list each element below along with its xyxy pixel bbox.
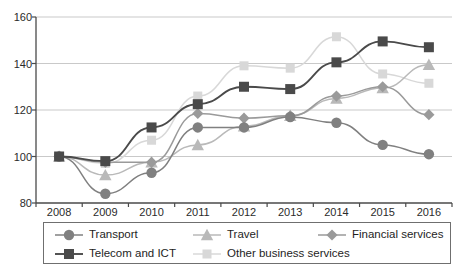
x-axis-tick-label: 2011 <box>186 206 210 218</box>
data-point-marker <box>240 61 249 70</box>
legend-label: Financial services <box>352 228 443 241</box>
x-axis-tick-label: 2013 <box>278 206 302 218</box>
series-line <box>59 37 429 164</box>
legend-label: Other business services <box>227 247 350 260</box>
data-point-marker <box>423 109 434 120</box>
data-point-marker <box>146 168 156 178</box>
y-axis-tick-label: 160 <box>4 12 32 23</box>
legend-row-2: Telecom and ICT Other business services <box>44 244 450 263</box>
data-point-marker <box>377 140 387 150</box>
series-transport <box>54 112 434 199</box>
data-point-marker <box>238 113 249 124</box>
data-point-marker <box>147 136 156 145</box>
axis-tickmarks <box>32 17 452 207</box>
x-axis-tick-label: 2009 <box>93 206 117 218</box>
other-business-services-marker-icon <box>192 247 222 261</box>
financial-services-marker-icon <box>317 228 347 242</box>
x-axis-tick-label: 2015 <box>370 206 394 218</box>
series-layer <box>53 32 435 199</box>
legend-label: Telecom and ICT <box>89 247 176 260</box>
y-axis-tick-label: 140 <box>4 58 32 69</box>
data-point-marker <box>239 122 249 132</box>
legend-label: Transport <box>89 228 138 241</box>
data-point-marker <box>332 32 341 41</box>
legend-row-1: Transport Travel Financial services <box>44 225 450 244</box>
chart-figure: 16014012010080 2008200920102011201220132… <box>0 0 459 271</box>
legend-item-travel[interactable]: Travel <box>192 225 259 244</box>
data-point-marker <box>100 156 110 166</box>
legend-label: Travel <box>227 228 259 241</box>
legend-marker-swatch <box>192 247 222 261</box>
data-point-marker <box>193 122 203 132</box>
data-point-marker <box>424 42 434 52</box>
series-other-business-services <box>55 32 434 168</box>
transport-marker-icon <box>54 228 84 242</box>
data-point-marker <box>424 149 434 159</box>
y-axis-tick-label: 100 <box>4 151 32 162</box>
data-point-marker <box>378 69 387 78</box>
data-point-marker <box>424 79 433 88</box>
legend-marker-swatch <box>54 228 84 242</box>
y-axis-tick-label: 120 <box>4 105 32 116</box>
legend-item-other-business-services[interactable]: Other business services <box>192 244 350 263</box>
x-axis-tick-label: 2014 <box>324 206 348 218</box>
x-axis-tick-label: 2010 <box>139 206 163 218</box>
data-point-marker <box>54 152 64 162</box>
legend-item-transport[interactable]: Transport <box>54 225 138 244</box>
plot-area <box>0 0 459 216</box>
data-point-marker <box>239 82 249 92</box>
data-point-marker <box>286 64 295 73</box>
data-point-marker <box>193 99 203 109</box>
travel-marker-icon <box>192 228 222 242</box>
y-axis-tick-labels: 16014012010080 <box>3 0 32 216</box>
legend-item-telecom-and-ict[interactable]: Telecom and ICT <box>54 244 176 263</box>
legend-marker-swatch <box>317 228 347 242</box>
data-point-marker <box>285 84 295 94</box>
legend-item-financial-services[interactable]: Financial services <box>317 225 443 244</box>
legend-marker-swatch <box>192 228 222 242</box>
chart-legend: Transport Travel Financial services Tele… <box>43 222 451 264</box>
line-chart-svg <box>0 0 459 216</box>
data-point-marker <box>331 118 341 128</box>
x-axis-tick-label: 2016 <box>417 206 441 218</box>
data-point-marker <box>285 112 295 122</box>
legend-marker-swatch <box>54 247 84 261</box>
x-axis-tick-label: 2008 <box>47 206 71 218</box>
series-telecom-and-ict <box>54 36 434 166</box>
x-axis-tick-labels: 200820092010201120122013201420152016 <box>0 200 459 220</box>
data-point-marker <box>423 58 435 69</box>
data-point-marker <box>331 57 341 67</box>
x-axis-tick-label: 2012 <box>232 206 256 218</box>
data-point-marker <box>147 122 157 132</box>
data-point-marker <box>378 36 388 46</box>
data-point-marker <box>100 189 110 199</box>
telecom-and-ict-marker-icon <box>54 247 84 261</box>
